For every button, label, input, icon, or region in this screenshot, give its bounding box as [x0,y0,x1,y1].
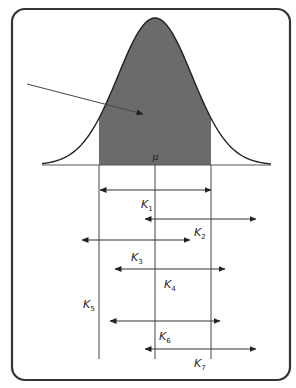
shaded-area [99,18,211,165]
interval-label-k3: K3 [131,251,143,266]
normal-distribution-diagram: μ K1K2K3K4K5K6K7 [0,0,296,388]
interval-label-k7: K7 [194,357,206,372]
interval-label-k4: K4 [164,278,176,293]
interval-label-k5: K5 [83,298,95,313]
interval-label-k6: K6 [159,330,171,345]
mean-label: μ [152,151,159,162]
interval-arrows: K1K2K3K4K5K6K7 [82,190,256,372]
vertical-boundary-lines [99,165,211,359]
interval-label-k1: K1 [141,198,153,213]
interval-label-k2: K2 [194,226,206,241]
